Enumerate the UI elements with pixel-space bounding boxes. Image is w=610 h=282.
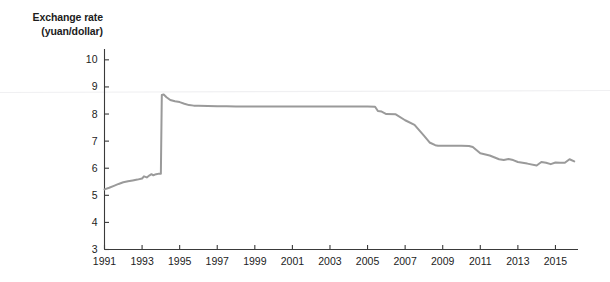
- y-tick-label-9: 9: [80, 81, 98, 92]
- x-tick-label-1997: 1997: [197, 256, 237, 267]
- series-line-0: [105, 95, 575, 190]
- y-tick-label-10: 10: [80, 54, 98, 65]
- x-tick-label-1995: 1995: [160, 256, 200, 267]
- y-tick-label-4: 4: [80, 217, 98, 228]
- x-tick-label-1999: 1999: [235, 256, 275, 267]
- y-tick-label-8: 8: [80, 109, 98, 120]
- y-tick-label-7: 7: [80, 136, 98, 147]
- x-tick-label-2015: 2015: [535, 256, 575, 267]
- x-tick-label-2011: 2011: [460, 256, 500, 267]
- x-tick-label-1991: 1991: [85, 256, 125, 267]
- x-tick-label-2009: 2009: [423, 256, 463, 267]
- exchange-rate-line-chart: Exchange rate (yuan/dollar) 345678910 19…: [0, 0, 610, 282]
- y-tick-label-3: 3: [80, 244, 98, 255]
- x-tick-label-2005: 2005: [348, 256, 388, 267]
- x-tick-label-2001: 2001: [272, 256, 312, 267]
- x-tick-label-1993: 1993: [122, 256, 162, 267]
- data-series-group: [105, 95, 575, 190]
- y-tick-label-6: 6: [80, 163, 98, 174]
- y-tick-label-5: 5: [80, 190, 98, 201]
- x-tick-label-2013: 2013: [498, 256, 538, 267]
- x-tick-label-2007: 2007: [385, 256, 425, 267]
- x-tick-label-2003: 2003: [310, 256, 350, 267]
- chart-axes: [105, 49, 579, 250]
